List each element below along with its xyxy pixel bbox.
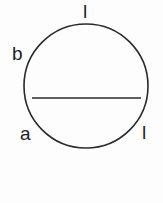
label-lower-left: a [20,124,31,143]
circle-outline [24,24,148,148]
label-upper-left: b [12,44,23,63]
label-top: l [83,2,87,21]
circle-diagram [0,0,163,203]
label-lower-right: l [142,123,146,142]
